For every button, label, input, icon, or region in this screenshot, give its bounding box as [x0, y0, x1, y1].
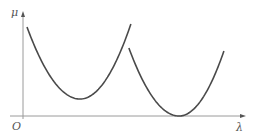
- curve-1: [27, 24, 131, 99]
- y-axis-label: μ: [11, 6, 18, 19]
- chart: μ λ O: [0, 0, 255, 138]
- y-axis-arrow: [21, 11, 25, 17]
- x-axis-arrow: [240, 114, 246, 118]
- curves-group: [27, 24, 224, 116]
- origin-label: O: [12, 120, 21, 133]
- x-axis-label: λ: [235, 121, 243, 134]
- curve-2: [129, 48, 224, 116]
